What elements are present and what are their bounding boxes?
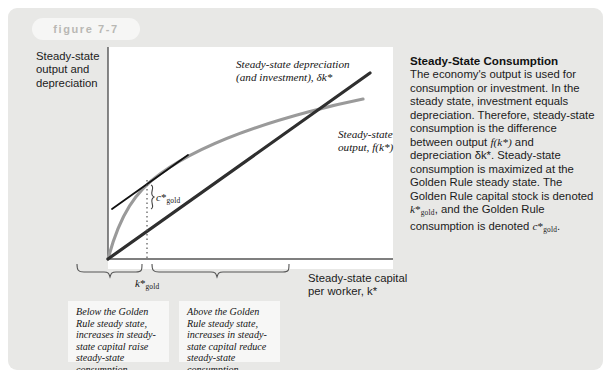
output-label-line2: output, f(k*) bbox=[338, 141, 393, 153]
side-panel: Steady-State Consumption The economy's o… bbox=[410, 54, 596, 236]
side-text-part4: . bbox=[557, 220, 560, 232]
k-gold-label: k*gold bbox=[135, 277, 159, 291]
side-panel-body: The economy's output is used for consump… bbox=[410, 68, 596, 236]
figure-number-label: figure 7-7 bbox=[32, 18, 140, 40]
depreciation-label-line1: Steady-state depreciation bbox=[236, 58, 350, 70]
depreciation-label-line2: (and investment), δk* bbox=[236, 71, 332, 83]
side-text-fk: f(k*) bbox=[490, 136, 511, 148]
side-panel-title: Steady-State Consumption bbox=[410, 54, 596, 67]
output-curve-label: Steady-state output, f(k*) bbox=[338, 128, 418, 154]
y-axis-label: Steady-state output and depreciation bbox=[36, 50, 106, 90]
x-axis-label: Steady-state capital per worker, k* bbox=[308, 272, 428, 299]
c-gold-subscript: gold bbox=[166, 196, 180, 205]
side-text-kgold: k*gold bbox=[410, 203, 435, 215]
output-label-line1: Steady-state bbox=[338, 128, 393, 140]
figure-panel: figure 7-7 Steady-state output and depre… bbox=[8, 8, 603, 370]
x-axis-label-line1: Steady-state capital bbox=[308, 272, 407, 284]
caption-above-golden-rule: Above the Golden Rule steady state, incr… bbox=[179, 301, 280, 362]
x-axis-label-line2: per worker, k* bbox=[308, 285, 377, 297]
side-text-cgold: c*gold bbox=[532, 220, 557, 232]
k-gold-subscript: gold bbox=[145, 282, 159, 291]
c-gold-label: c*gold bbox=[156, 191, 180, 205]
depreciation-curve-label: Steady-state depreciation (and investmen… bbox=[236, 58, 396, 84]
figure-number-tab: figure 7-7 bbox=[32, 18, 140, 40]
caption-below-golden-rule: Below the Golden Rule steady state, incr… bbox=[68, 301, 169, 362]
